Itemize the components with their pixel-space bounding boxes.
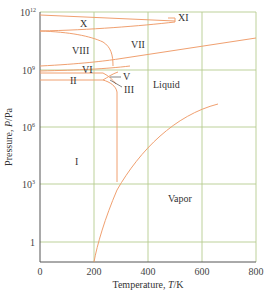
y-axis-title: Pressure, P/Pa — [3, 108, 14, 166]
y-tick-1e6: 106 — [22, 122, 35, 133]
phase-label-viii: VIII — [72, 45, 89, 56]
x-tick-800: 800 — [249, 266, 264, 277]
x-axis-title: Temperature, T/K — [113, 279, 185, 290]
x-ticks: 0 200 400 600 800 — [38, 266, 264, 277]
y-tick-1e12: 1012 — [20, 7, 36, 18]
phase-labels: XI X VIII VII VI V II III Liquid I Vapor — [70, 12, 193, 204]
x-tick-0: 0 — [38, 266, 43, 277]
x-tick-600: 600 — [195, 266, 210, 277]
y-tick-1e3: 103 — [22, 179, 35, 190]
phase-label-xi: XI — [178, 12, 189, 23]
x-tick-400: 400 — [141, 266, 156, 277]
y-tick-1: 1 — [30, 237, 35, 248]
y-ticks: 1012 109 106 103 1 — [20, 7, 36, 248]
phase-label-v: V — [123, 71, 131, 82]
phase-label-vii: VII — [131, 39, 145, 50]
phase-label-vapor: Vapor — [168, 193, 193, 204]
phase-label-x: X — [80, 18, 88, 29]
phase-label-i: I — [75, 156, 78, 167]
phase-label-vi: VI — [82, 64, 93, 75]
phase-label-ii: II — [70, 75, 77, 86]
phase-label-liquid: Liquid — [153, 79, 180, 90]
x-tick-200: 200 — [87, 266, 102, 277]
y-tick-1e9: 109 — [22, 65, 35, 76]
phase-diagram: 1012 109 106 103 1 0 200 400 600 800 Tem… — [0, 0, 271, 296]
phase-label-iii: III — [124, 84, 134, 95]
